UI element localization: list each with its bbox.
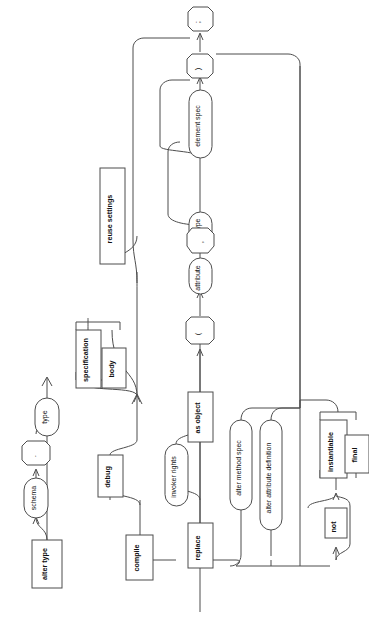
- node-instantiable[interactable]: instantiable: [320, 420, 347, 478]
- node-label: alter type: [40, 548, 49, 580]
- node-specification[interactable]: specification: [76, 330, 101, 388]
- node-label: (: [193, 332, 202, 335]
- node-replace[interactable]: replace: [188, 523, 213, 568]
- node-label: attribute: [194, 265, 201, 290]
- node-element-spec[interactable]: element spec: [189, 90, 212, 158]
- node-label: ): [193, 67, 202, 70]
- node-label: debug: [103, 466, 112, 488]
- node-label: compile: [132, 544, 141, 571]
- node-alter-attribute-definition[interactable]: alter attribute definition: [260, 420, 282, 530]
- node-label: reuse settings: [105, 195, 114, 244]
- node-alter-method-spec[interactable]: alter method spec: [230, 420, 252, 510]
- node-label: alter attribute definition: [265, 442, 272, 513]
- node-label: final: [350, 448, 359, 463]
- node-label: schema: [30, 486, 37, 511]
- node-schema[interactable]: schema: [24, 478, 48, 518]
- node-as-object[interactable]: as object: [188, 392, 213, 442]
- node-label: alter method spec: [235, 440, 243, 496]
- node-label: instantiable: [326, 432, 335, 472]
- node-not[interactable]: not: [325, 508, 347, 538]
- node-label: replace: [193, 535, 202, 560]
- node-comma-wrapper[interactable]: ,: [185, 226, 217, 256]
- node-label: ;: [193, 21, 202, 23]
- node-alter-type[interactable]: alter type: [32, 540, 62, 588]
- node-label: invoker rights: [170, 456, 178, 498]
- node-rparen[interactable]: ): [187, 54, 213, 78]
- node-invoker-rights[interactable]: invoker rights: [165, 444, 188, 506]
- node-debug[interactable]: debug: [98, 455, 123, 497]
- node-label: type: [41, 410, 49, 423]
- node-label: ,: [196, 241, 205, 243]
- syntax-diagram-svg: alter type schema . type compile debug s…: [0, 0, 369, 620]
- node-type[interactable]: type: [35, 398, 59, 436]
- node-reuse-settings[interactable]: reuse settings: [100, 168, 125, 264]
- node-attribute[interactable]: attribute: [189, 258, 212, 294]
- node-label: not: [329, 521, 338, 533]
- node-final[interactable]: final: [345, 435, 369, 473]
- node-body[interactable]: body: [102, 348, 126, 388]
- node-label: body: [107, 360, 116, 377]
- node-label: specification: [81, 338, 90, 382]
- node-lparen[interactable]: (: [186, 317, 214, 344]
- node-label: .: [29, 455, 38, 457]
- node-dot[interactable]: .: [22, 441, 50, 465]
- node-compile[interactable]: compile: [126, 535, 153, 580]
- node-semicolon[interactable]: ;: [188, 7, 213, 31]
- diagram-canvas: alter type schema . type compile debug s…: [0, 0, 369, 620]
- node-label: as object: [193, 402, 202, 434]
- node-label: element spec: [194, 105, 202, 147]
